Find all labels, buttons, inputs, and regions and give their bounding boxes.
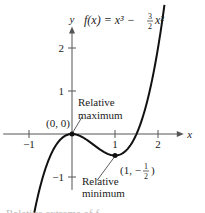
y-axis-label: y	[69, 13, 75, 25]
x-axis-arrow	[177, 131, 184, 137]
title-x2: x²	[154, 13, 164, 27]
footer-caption: Relative extrema of f	[6, 207, 99, 213]
y-tick-label: −1	[52, 171, 64, 183]
x-tick-label: 1	[112, 138, 118, 150]
relative-minimum-annotation-line1: Relative	[82, 175, 119, 187]
relative-minimum-label-text: (1, −	[120, 164, 141, 177]
y-tick-label: 2	[59, 42, 65, 54]
chart-title-text: f(x) = x³ −	[84, 13, 135, 27]
min-close-paren: )	[151, 164, 155, 177]
min-fraction-numerator: 1	[144, 162, 148, 171]
y-tick-label: 1	[59, 85, 65, 97]
relative-maximum-annotation-line2: maximum	[78, 109, 123, 121]
relative-maximum-label: (0, 0)	[46, 117, 70, 130]
relative-maximum-point	[70, 132, 75, 137]
x-tick-label: 2	[155, 138, 161, 150]
relative-minimum-label: (1, −12)	[120, 162, 155, 181]
title-fraction-denominator: 2	[148, 22, 152, 31]
chart: xy−112−112 f(x) = x³ − 32x²(0, 0)Relativ…	[0, 0, 205, 213]
y-axis-arrow	[69, 27, 75, 34]
relative-maximum-annotation-line1: Relative	[78, 96, 115, 108]
title-fraction-numerator: 3	[148, 12, 152, 21]
chart-title: f(x) = x³ − 32x²	[84, 12, 164, 31]
relative-minimum-point	[113, 153, 118, 158]
min-fraction-denominator: 2	[144, 172, 148, 181]
x-tick-label: −1	[23, 138, 35, 150]
relative-minimum-annotation-line2: minimum	[82, 187, 125, 199]
x-axis-label: x	[186, 128, 192, 140]
